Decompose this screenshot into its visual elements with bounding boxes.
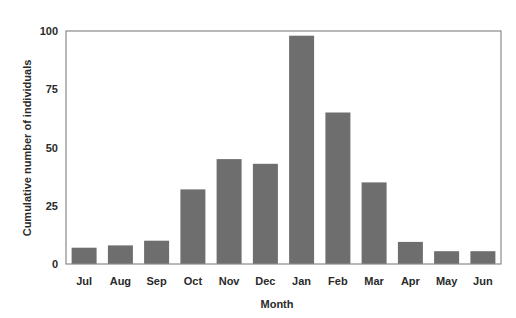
x-tick-label: Oct: [184, 275, 203, 287]
x-tick-label: Dec: [255, 275, 275, 287]
x-tick-label: Jan: [292, 275, 311, 287]
y-axis-ticks: 0255075100: [40, 25, 58, 270]
bar-aug: [108, 245, 133, 264]
bar-dec: [253, 164, 278, 264]
y-tick-label: 0: [52, 258, 58, 270]
y-tick-label: 75: [46, 83, 58, 95]
bar-oct: [180, 189, 205, 264]
x-tick-label: Apr: [401, 275, 421, 287]
x-tick-label: Jul: [76, 275, 92, 287]
x-tick-label: Aug: [110, 275, 131, 287]
y-axis-title: Cumulative number of individuals: [21, 60, 33, 237]
y-tick-label: 100: [40, 25, 58, 37]
x-tick-label: May: [436, 275, 458, 287]
x-tick-label: Sep: [147, 275, 167, 287]
x-axis-title: Month: [261, 298, 294, 310]
plot-frame: [66, 31, 501, 264]
bars-group: [72, 36, 496, 264]
bar-chart: 0255075100 JulAugSepOctNovDecJanFebMarAp…: [0, 0, 516, 318]
y-tick-label: 50: [46, 142, 58, 154]
bar-jul: [72, 248, 97, 264]
y-tick-label: 25: [46, 200, 58, 212]
bar-jun: [470, 251, 495, 264]
x-tick-label: Jun: [473, 275, 493, 287]
x-tick-label: Mar: [364, 275, 384, 287]
bar-apr: [398, 242, 423, 264]
bar-feb: [325, 113, 350, 265]
bar-may: [434, 251, 459, 264]
x-tick-label: Feb: [328, 275, 348, 287]
x-tick-label: Nov: [219, 275, 241, 287]
bar-mar: [362, 182, 387, 264]
bar-sep: [144, 241, 169, 264]
bar-jan: [289, 36, 314, 264]
bar-nov: [217, 159, 242, 264]
x-axis-ticks: JulAugSepOctNovDecJanFebMarAprMayJun: [76, 275, 493, 287]
